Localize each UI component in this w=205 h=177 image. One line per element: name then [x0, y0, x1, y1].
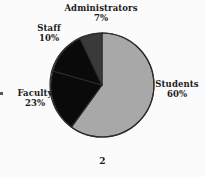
pie-chart-figure: Administrators 7% Staff 10% Faculty 23% …: [0, 0, 205, 177]
faculty-leader-line: [0, 92, 3, 95]
slice-label-administrators: Administrators 7%: [52, 4, 150, 23]
figure-caption: 2: [0, 156, 205, 166]
slice-label-staff-percent: 10%: [18, 34, 80, 44]
slice-label-administrators-percent: 7%: [52, 14, 150, 24]
slice-label-students: Students 60%: [150, 80, 204, 99]
slice-label-faculty: Faculty 23%: [4, 89, 66, 108]
slice-label-students-percent: 60%: [150, 90, 204, 100]
slice-label-faculty-percent: 23%: [4, 99, 66, 109]
slice-label-staff: Staff 10%: [18, 24, 80, 43]
